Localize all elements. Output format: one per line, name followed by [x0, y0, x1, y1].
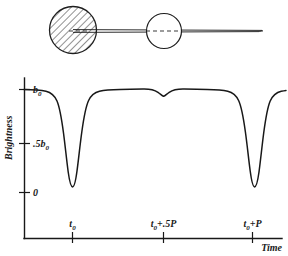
large-hatched-star — [50, 7, 97, 54]
x-axis-label-text: Time — [261, 242, 282, 253]
x-tick-label-t0-P: t0+P — [243, 218, 262, 232]
x-tick-labels: t0 t0+.5P t0+P — [69, 218, 262, 232]
y-tick-label-b0: b0 — [33, 84, 42, 98]
y-tick-labels: b0 .5b0 0 — [33, 84, 50, 198]
light-curve-figure: Brightness b0 .5b0 0 t0 t0+.5P t0+P Time — [0, 0, 288, 256]
y-axis-label: Brightness — [3, 115, 14, 161]
y-tick-label-half-b0: .5b0 — [33, 138, 50, 152]
x-tick-label-t0: t0 — [69, 218, 76, 232]
x-tick-label-t0-half-P: t0+.5P — [151, 218, 177, 232]
y-tick-label-zero: 0 — [33, 187, 38, 198]
light-curve-path — [24, 89, 286, 187]
binary-star-diagram — [50, 7, 264, 54]
y-axis-label-text: Brightness — [3, 115, 14, 161]
figure-page: Brightness b0 .5b0 0 t0 t0+.5P t0+P Time — [0, 0, 288, 256]
light-curve-plot — [24, 89, 286, 187]
